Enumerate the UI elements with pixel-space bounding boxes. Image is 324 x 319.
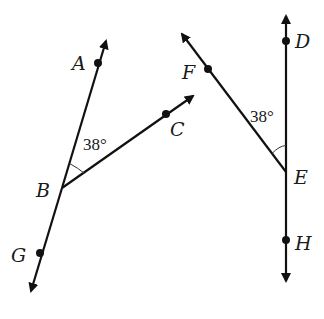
geometry-diagram: A B C G 38° D F E H 38° (0, 0, 324, 319)
point-d (282, 37, 290, 45)
label-c: C (170, 118, 185, 140)
label-e: E (293, 166, 308, 188)
point-g (36, 249, 44, 257)
label-a: A (70, 52, 86, 74)
point-c (162, 110, 170, 118)
right-figure: D F E H 38° (181, 16, 312, 281)
diagram-canvas: A B C G 38° D F E H 38° (0, 0, 324, 319)
ray-bc (62, 96, 193, 188)
label-h: H (294, 232, 312, 254)
point-a (94, 59, 102, 67)
point-f (204, 65, 212, 73)
angle-fed-arc (272, 146, 286, 154)
label-f: F (181, 61, 196, 83)
line-bg-ray (31, 188, 62, 291)
left-figure: A B C G 38° (11, 41, 193, 291)
label-d: D (294, 30, 310, 52)
point-h (282, 236, 290, 244)
label-b: B (35, 179, 50, 201)
ray-ef (182, 34, 286, 172)
label-g: G (11, 244, 26, 266)
angle-abc-arc (70, 164, 85, 174)
angle-fed-label: 38° (250, 107, 274, 126)
angle-abc-label: 38° (83, 135, 107, 154)
